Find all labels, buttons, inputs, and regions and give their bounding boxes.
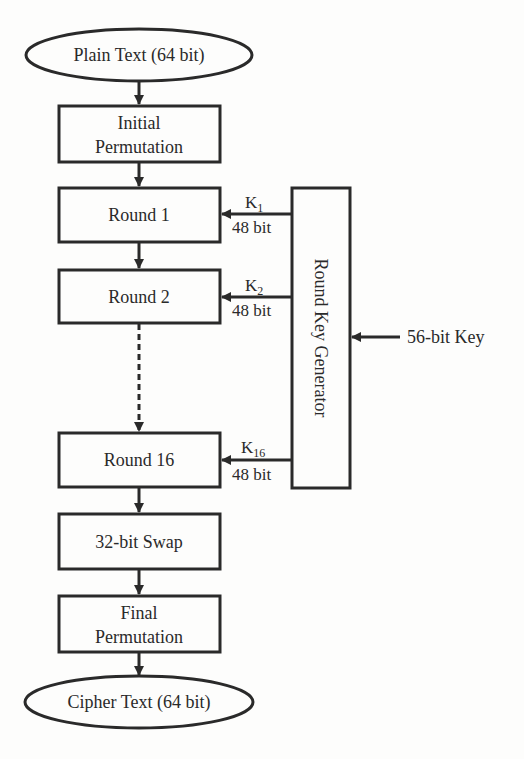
k1-label: K1 xyxy=(245,193,263,215)
k16-bits: 48 bit xyxy=(232,465,271,484)
initial-permutation-line1: Initial xyxy=(118,113,161,133)
final-permutation-line2: Permutation xyxy=(95,627,183,647)
plain-text-label: Plain Text (64 bit) xyxy=(74,45,205,66)
k1-bits: 48 bit xyxy=(232,218,271,237)
round-16-label: Round 16 xyxy=(104,450,175,470)
round-key-generator-label: Round Key Generator xyxy=(311,259,331,418)
cipher-text-label: Cipher Text (64 bit) xyxy=(68,692,211,713)
final-permutation-line1: Final xyxy=(120,603,157,623)
round-1-label: Round 1 xyxy=(108,205,170,225)
swap-label: 32-bit Swap xyxy=(95,532,183,552)
k2-label: K2 xyxy=(245,276,263,298)
k16-label: K16 xyxy=(241,438,265,460)
56bit-key-label: 56-bit Key xyxy=(407,327,484,347)
round-2-label: Round 2 xyxy=(108,287,170,307)
initial-permutation-line2: Permutation xyxy=(95,137,183,157)
des-diagram: Plain Text (64 bit) Initial Permutation … xyxy=(0,0,524,759)
k2-bits: 48 bit xyxy=(232,301,271,320)
